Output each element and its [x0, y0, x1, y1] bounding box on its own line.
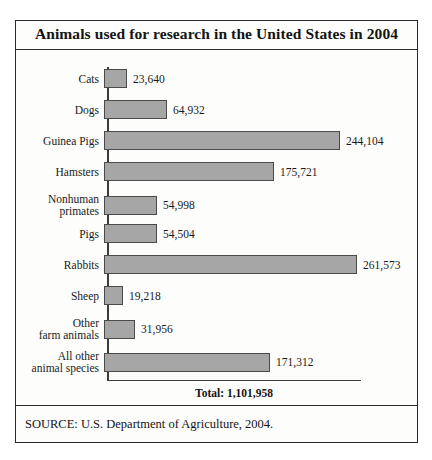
bar-hamsters	[104, 162, 274, 181]
bar-guinea-pigs	[104, 131, 340, 150]
bar-sheep	[104, 286, 123, 305]
bar-row: Cats 23,640	[16, 69, 417, 88]
bar-category-label: Pigs	[16, 228, 104, 240]
bar-value-label: 64,932	[167, 104, 205, 116]
bar-value-label: 19,218	[123, 290, 161, 302]
bar-row: Guinea Pigs 244,104	[16, 131, 417, 150]
bar-row: Sheep 19,218	[16, 286, 417, 305]
baseline-axis-line	[107, 380, 361, 381]
bar-category-label: Rabbits	[16, 259, 104, 271]
source-note: SOURCE: U.S. Department of Agriculture, …	[25, 417, 273, 432]
bar-value-label: 244,104	[340, 135, 383, 147]
bar-row: Pigs 54,504	[16, 224, 417, 243]
bar-value-label: 23,640	[127, 73, 165, 85]
bar-row: All other animal species 171,312	[16, 350, 417, 374]
bar-row: Rabbits 261,573	[16, 255, 417, 274]
bar-category-label: All other animal species	[16, 350, 104, 374]
bar-row: Nonhuman primates 54,998	[16, 193, 417, 217]
bar-category-label: Other farm animals	[16, 317, 104, 341]
bar-value-label: 54,998	[157, 199, 195, 211]
bar-category-label: Sheep	[16, 290, 104, 302]
bar-rabbits	[104, 255, 357, 274]
title-divider	[16, 49, 417, 50]
bar-value-label: 54,504	[157, 228, 195, 240]
bar-value-label: 171,312	[270, 356, 313, 368]
bar-dogs	[104, 100, 167, 119]
bar-row: Dogs 64,932	[16, 100, 417, 119]
bar-category-label: Cats	[16, 73, 104, 85]
bar-row: Other farm animals 31,956	[16, 317, 417, 341]
bar-category-label: Nonhuman primates	[16, 193, 104, 217]
bar-cats	[104, 69, 127, 88]
bar-value-label: 31,956	[135, 323, 173, 335]
bar-category-label: Guinea Pigs	[16, 135, 104, 147]
bar-category-label: Hamsters	[16, 166, 104, 178]
bar-all-other-animal-species	[104, 353, 270, 372]
total-label: Total: 1,101,958	[107, 387, 361, 399]
page-title: Animals used for research in the United …	[16, 25, 417, 43]
bar-row: Hamsters 175,721	[16, 162, 417, 181]
bar-other-farm-animals	[104, 320, 135, 339]
bar-nonhuman-primates	[104, 196, 157, 215]
bar-category-label: Dogs	[16, 104, 104, 116]
bar-value-label: 261,573	[357, 259, 400, 271]
bar-pigs	[104, 224, 157, 243]
chart-plot-area: Cats 23,640 Dogs 64,932 Guinea Pigs 244,…	[16, 51, 417, 406]
figure-container: Animals used for research in the United …	[15, 20, 418, 443]
source-divider	[16, 405, 417, 406]
bar-value-label: 175,721	[274, 166, 317, 178]
